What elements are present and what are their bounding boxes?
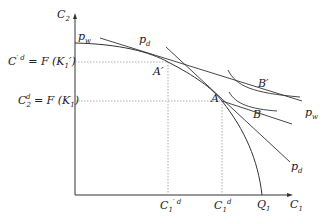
line-label-pd-right: pd: [291, 161, 303, 175]
y-axis-arrow-icon: [73, 13, 77, 19]
diagram-canvas: [0, 0, 327, 224]
line-pd-right: [166, 47, 290, 162]
x-axis-label: C1: [290, 199, 303, 213]
point-a-label: A: [211, 93, 219, 104]
line-label-pw-top: pw: [78, 31, 91, 45]
x-tick-cprime: C1′ d: [160, 199, 181, 214]
point-bprime-label: B′: [258, 78, 269, 89]
point-b-label: B: [253, 109, 261, 120]
y-tick-cprime: C′ d = F (K1′): [8, 55, 76, 70]
x-tick-q1: Q1: [257, 199, 271, 213]
line-label-pw-right: pw: [305, 107, 318, 121]
line-label-pd-top: pd: [139, 34, 151, 48]
point-aprime-label: A′: [153, 66, 163, 77]
x-axis-arrow-icon: [287, 193, 293, 197]
line-pd-top: [100, 38, 302, 101]
y-tick-c2: C2d = F (K1): [18, 94, 79, 109]
x-tick-c1: C1d: [214, 199, 231, 214]
ppf-curve: [75, 43, 262, 195]
ppf-diagram: C2 C1 C′ d = F (K1′) C2d = F (K1) C1′ d …: [0, 0, 327, 224]
y-axis-label: C2: [57, 9, 70, 23]
